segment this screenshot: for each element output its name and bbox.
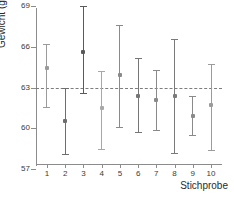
errorbar-upper-cap: [98, 71, 105, 72]
y-tick-mark: [31, 128, 36, 129]
y-tick-label: 66: [21, 43, 30, 51]
mean-marker: [209, 103, 213, 107]
x-tick-mark: [120, 164, 121, 168]
errorbar-upper-cap: [80, 6, 87, 7]
errorbar-stem: [46, 44, 47, 106]
x-tick-label: 3: [81, 170, 85, 178]
errorbar-lower-cap: [43, 107, 50, 108]
errorbar-upper-cap: [208, 64, 215, 65]
mean-marker: [81, 50, 85, 54]
errorbar-lower-cap: [208, 150, 215, 151]
y-tick-mark: [31, 6, 36, 7]
x-tick-mark: [102, 164, 103, 168]
y-tick-label: 69: [21, 2, 30, 10]
errorbar-upper-cap: [189, 96, 196, 97]
errorbar-lower-cap: [135, 132, 142, 133]
mean-marker: [154, 98, 158, 102]
plot-area: 5760636669: [36, 6, 222, 169]
errorbar-upper-cap: [116, 25, 123, 26]
mean-marker: [45, 66, 49, 70]
errorbar-lower-cap: [98, 149, 105, 150]
x-tick-label: 7: [154, 170, 158, 178]
mean-marker: [173, 94, 177, 98]
y-tick-label: 57: [21, 165, 30, 173]
x-tick-label: 1: [45, 170, 49, 178]
y-tick-mark: [31, 169, 36, 170]
errorbar-lower-cap: [189, 135, 196, 136]
errorbar-lower-cap: [80, 93, 87, 94]
errorbar-upper-cap: [62, 88, 69, 89]
mean-marker: [63, 119, 67, 123]
errorbar-chart: Gewicht (g) Stichprobe 5760636669 123456…: [0, 0, 234, 198]
errorbar-upper-cap: [43, 44, 50, 45]
errorbar-lower-cap: [171, 153, 178, 154]
x-tick-mark: [175, 164, 176, 168]
x-tick-label: 10: [207, 170, 216, 178]
x-tick-label: 5: [118, 170, 122, 178]
x-tick-label: 8: [172, 170, 176, 178]
errorbar-stem: [211, 64, 212, 150]
errorbar-lower-cap: [153, 130, 160, 131]
x-tick-mark: [193, 164, 194, 168]
x-tick-mark: [83, 164, 84, 168]
y-axis-title: Gewicht (g): [0, 0, 7, 48]
x-tick-label: 6: [136, 170, 140, 178]
x-tick-mark: [47, 164, 48, 168]
y-tick-label: 60: [21, 124, 30, 132]
x-tick-mark: [65, 164, 66, 168]
mean-marker: [100, 106, 104, 110]
x-tick-label: 2: [63, 170, 67, 178]
errorbar-lower-cap: [62, 154, 69, 155]
y-tick-label: 63: [21, 84, 30, 92]
mean-marker: [118, 73, 122, 77]
errorbar-lower-cap: [116, 127, 123, 128]
x-tick-label: 4: [99, 170, 103, 178]
errorbar-upper-cap: [171, 39, 178, 40]
y-tick-mark: [31, 47, 36, 48]
x-tick-mark: [211, 164, 212, 168]
errorbar-upper-cap: [153, 70, 160, 71]
mean-marker: [136, 94, 140, 98]
x-tick-mark: [156, 164, 157, 168]
x-axis-title: Stichprobe: [180, 180, 228, 191]
errorbar-stem: [101, 71, 102, 148]
errorbar-upper-cap: [135, 58, 142, 59]
mean-marker: [191, 114, 195, 118]
x-tick-label: 9: [191, 170, 195, 178]
x-tick-mark: [138, 164, 139, 168]
